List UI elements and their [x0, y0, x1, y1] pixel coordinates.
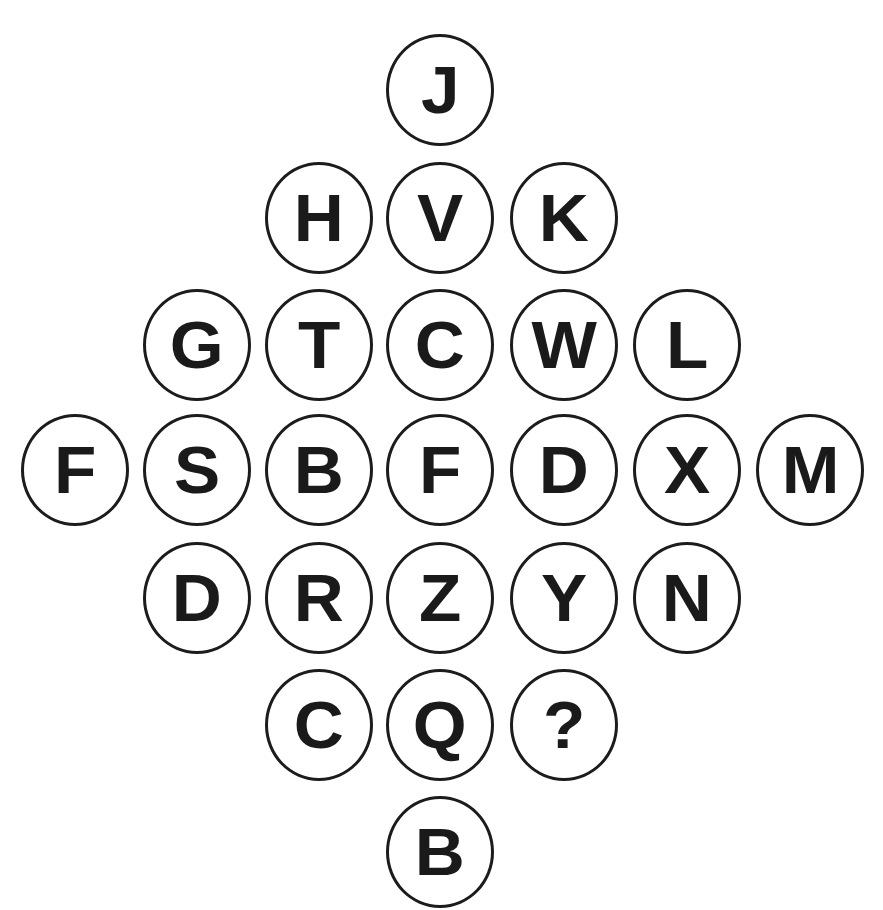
letter: D [539, 437, 589, 503]
letter-circle: J [386, 34, 494, 146]
letter-circle: R [265, 542, 373, 654]
letter-circle: Z [386, 542, 494, 654]
letter: S [174, 437, 220, 503]
letter-circle: Q [386, 669, 494, 781]
letter-circle: N [633, 542, 741, 654]
letter: B [415, 819, 465, 885]
letter: B [294, 437, 344, 503]
letter-diamond-puzzle: JHVKGTCWLFSBFDXMDRZYNCQ?B [0, 0, 883, 910]
letter: Q [413, 692, 467, 758]
letter-circle: L [633, 289, 741, 401]
question-mark: ? [543, 692, 585, 758]
letter: H [294, 185, 344, 251]
letter-circle: B [386, 796, 494, 908]
letter-circle: B [265, 414, 373, 526]
letter-circle: S [143, 414, 251, 526]
letter: C [294, 692, 344, 758]
letter-circle: X [633, 414, 741, 526]
letter-circle: G [143, 289, 251, 401]
letter: D [172, 565, 222, 631]
letter-circle: F [386, 414, 494, 526]
letter: N [662, 565, 712, 631]
letter: W [531, 312, 596, 378]
letter: G [170, 312, 224, 378]
letter: F [419, 437, 461, 503]
missing-letter-circle: ? [510, 669, 618, 781]
letter: M [781, 437, 839, 503]
letter-circle: D [143, 542, 251, 654]
letter-circle: Y [510, 542, 618, 654]
letter: F [54, 437, 96, 503]
letter: J [421, 57, 460, 123]
letter-circle: V [386, 162, 494, 274]
letter: C [415, 312, 465, 378]
letter: V [417, 185, 463, 251]
letter-circle: W [510, 289, 618, 401]
letter-circle: T [265, 289, 373, 401]
letter-circle: H [265, 162, 373, 274]
letter: Z [419, 565, 461, 631]
letter-circle: D [510, 414, 618, 526]
letter: K [539, 185, 589, 251]
letter: R [294, 565, 344, 631]
letter-circle: M [756, 414, 864, 526]
letter-circle: C [265, 669, 373, 781]
letter: Y [541, 565, 587, 631]
letter: X [664, 437, 710, 503]
letter-circle: F [21, 414, 129, 526]
letter: L [666, 312, 708, 378]
letter-circle: C [386, 289, 494, 401]
letter-circle: K [510, 162, 618, 274]
letter: T [298, 312, 340, 378]
